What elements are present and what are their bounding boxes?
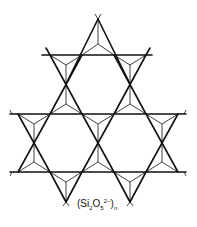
formula-n-subscript: n	[114, 205, 117, 211]
formula-charge: 2−	[104, 198, 111, 204]
formula-o-subscript: 5	[100, 205, 103, 211]
formula-si: (Si	[77, 198, 89, 209]
formula-label: (Si2O52−)n	[77, 198, 117, 211]
silicate-sheet-diagram	[0, 0, 197, 227]
